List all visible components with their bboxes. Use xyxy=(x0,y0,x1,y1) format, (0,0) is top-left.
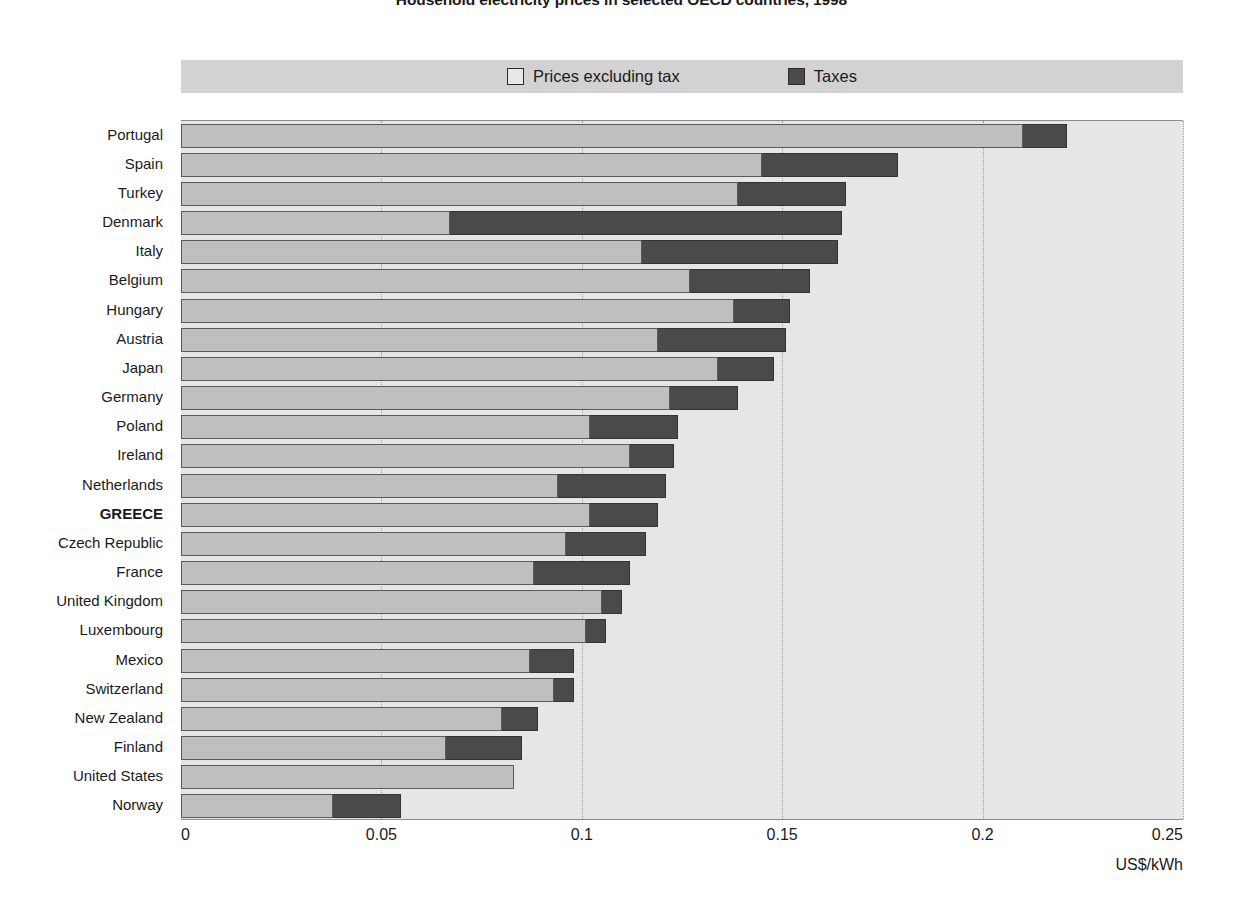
legend-item-prices-excluding-tax: Prices excluding tax xyxy=(507,68,680,85)
bar-segment-taxes xyxy=(586,619,606,643)
bar-segment-prices-excluding-tax xyxy=(181,182,738,206)
bar-segment-prices-excluding-tax xyxy=(181,707,502,731)
category-label-czech-republic: Czech Republic xyxy=(58,531,163,555)
chart-legend: Prices excluding tax Taxes xyxy=(181,60,1183,93)
x-axis-tick-label: 0 xyxy=(181,826,190,844)
bar-segment-taxes xyxy=(670,386,738,410)
bar-row xyxy=(181,649,574,673)
bar-row xyxy=(181,561,630,585)
bar-row xyxy=(181,386,738,410)
category-label-denmark: Denmark xyxy=(102,210,163,234)
bar-row xyxy=(181,328,786,352)
bar-row xyxy=(181,590,622,614)
bar-row xyxy=(181,678,574,702)
bar-segment-prices-excluding-tax xyxy=(181,240,642,264)
category-label-belgium: Belgium xyxy=(109,268,163,292)
bar-segment-taxes xyxy=(450,211,843,235)
bar-segment-prices-excluding-tax xyxy=(181,765,514,789)
category-label-luxembourg: Luxembourg xyxy=(80,618,163,642)
bar-segment-taxes xyxy=(642,240,838,264)
bar-segment-prices-excluding-tax xyxy=(181,269,690,293)
bar-row xyxy=(181,269,810,293)
x-axis-tick-label: 0.05 xyxy=(366,826,397,844)
bar-segment-prices-excluding-tax xyxy=(181,561,534,585)
plot-area xyxy=(181,120,1183,820)
bar-segment-taxes xyxy=(333,794,401,818)
bar-segment-prices-excluding-tax xyxy=(181,415,590,439)
x-axis-tick-label: 0.25 xyxy=(1152,826,1183,844)
chart-title: Household electricity prices in selected… xyxy=(0,0,1243,9)
bar-segment-taxes xyxy=(590,503,658,527)
gridline xyxy=(1183,121,1184,819)
bar-row xyxy=(181,299,790,323)
bar-segment-taxes xyxy=(530,649,574,673)
bar-row xyxy=(181,182,846,206)
bar-segment-prices-excluding-tax xyxy=(181,590,602,614)
bar-segment-taxes xyxy=(1023,124,1067,148)
bar-segment-taxes xyxy=(630,444,674,468)
bar-rows xyxy=(181,121,1183,819)
bar-segment-prices-excluding-tax xyxy=(181,386,670,410)
bar-segment-prices-excluding-tax xyxy=(181,474,558,498)
category-label-hungary: Hungary xyxy=(106,298,163,322)
legend-label-prices-excluding-tax: Prices excluding tax xyxy=(533,68,680,85)
bar-row xyxy=(181,357,774,381)
bar-row xyxy=(181,532,646,556)
category-label-portugal: Portugal xyxy=(107,123,163,147)
bar-segment-taxes xyxy=(690,269,810,293)
bar-segment-taxes xyxy=(762,153,898,177)
category-label-ireland: Ireland xyxy=(117,443,163,467)
bar-row xyxy=(181,474,666,498)
category-label-norway: Norway xyxy=(112,793,163,817)
bar-row xyxy=(181,124,1067,148)
x-axis-tick-label: 0.1 xyxy=(571,826,593,844)
bar-segment-taxes xyxy=(738,182,846,206)
bar-segment-prices-excluding-tax xyxy=(181,532,566,556)
bar-segment-taxes xyxy=(734,299,790,323)
bar-segment-taxes xyxy=(446,736,522,760)
bar-segment-prices-excluding-tax xyxy=(181,124,1023,148)
bar-row xyxy=(181,415,678,439)
category-label-spain: Spain xyxy=(125,152,163,176)
category-label-mexico: Mexico xyxy=(115,648,163,672)
category-axis: PortugalSpainTurkeyDenmarkItalyBelgiumHu… xyxy=(0,120,172,820)
bar-row xyxy=(181,211,842,235)
category-label-austria: Austria xyxy=(116,327,163,351)
category-label-netherlands: Netherlands xyxy=(82,473,163,497)
bar-segment-taxes xyxy=(554,678,574,702)
bar-segment-prices-excluding-tax xyxy=(181,357,718,381)
bar-segment-prices-excluding-tax xyxy=(181,503,590,527)
bar-segment-prices-excluding-tax xyxy=(181,153,762,177)
bar-row xyxy=(181,794,401,818)
bar-segment-taxes xyxy=(566,532,646,556)
bar-row xyxy=(181,153,898,177)
bar-segment-prices-excluding-tax xyxy=(181,649,530,673)
category-label-greece: GREECE xyxy=(100,502,163,526)
category-label-poland: Poland xyxy=(116,414,163,438)
bar-segment-taxes xyxy=(502,707,538,731)
x-axis-tick-label: 0.15 xyxy=(767,826,798,844)
bar-segment-taxes xyxy=(658,328,786,352)
legend-item-taxes: Taxes xyxy=(788,68,857,85)
category-label-new-zealand: New Zealand xyxy=(75,706,163,730)
bar-segment-taxes xyxy=(718,357,774,381)
category-label-germany: Germany xyxy=(101,385,163,409)
bar-row xyxy=(181,736,522,760)
bar-row xyxy=(181,619,606,643)
bar-segment-prices-excluding-tax xyxy=(181,619,586,643)
bar-segment-prices-excluding-tax xyxy=(181,736,446,760)
bar-row xyxy=(181,503,658,527)
legend-swatch-light-icon xyxy=(507,68,524,85)
bar-segment-taxes xyxy=(558,474,666,498)
bar-segment-prices-excluding-tax xyxy=(181,678,554,702)
x-axis-unit-label: US$/kWh xyxy=(1115,856,1183,874)
category-label-italy: Italy xyxy=(135,239,163,263)
bar-segment-taxes xyxy=(602,590,622,614)
x-axis-tick-label: 0.2 xyxy=(971,826,993,844)
bar-segment-taxes xyxy=(534,561,630,585)
bar-row xyxy=(181,444,674,468)
category-label-united-states: United States xyxy=(73,764,163,788)
category-label-switzerland: Switzerland xyxy=(85,677,163,701)
bar-segment-prices-excluding-tax xyxy=(181,794,333,818)
category-label-japan: Japan xyxy=(122,356,163,380)
